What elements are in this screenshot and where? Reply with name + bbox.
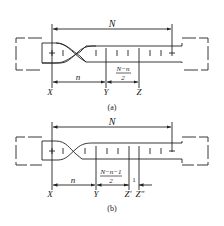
panel-a [16,24,208,88]
label-n-total-a: N [108,18,117,29]
point-z-prime-b: Z' [125,189,133,199]
label-frac-den-b: 2 [109,177,113,185]
label-one-b: 1 [132,176,136,184]
left-grip [16,38,42,70]
right-grip [182,38,208,70]
caption-b: (b) [107,204,117,213]
label-n-b: n [71,175,76,185]
label-n-a: n [76,72,81,82]
label-n-total-b: N [108,116,117,127]
label-frac-num-b: N−n−1 [99,168,121,176]
point-y-b: Y [93,189,99,199]
twisted-strip-diagram: N n N−n 2 X Y Z (a) N n N−n−1 2 1 X Y Z'… [0,0,224,226]
label-frac-den-a: 2 [121,74,125,82]
left-grip [16,137,42,165]
point-z-a: Z [136,87,142,97]
point-x-a: X [46,87,53,97]
point-z-double-prime-b: Z" [136,189,145,199]
point-y-a: Y [103,87,109,97]
caption-a: (a) [108,103,117,112]
label-frac-num-a: N−n [116,65,130,73]
point-x-b: X [46,189,53,199]
right-grip [182,137,208,165]
